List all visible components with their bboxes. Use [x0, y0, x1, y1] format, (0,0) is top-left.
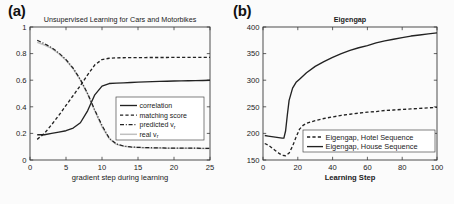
x-tick-label: 10 [98, 163, 106, 172]
y-tick-label: 200 [247, 129, 260, 138]
y-tick-label: 1 [22, 23, 26, 32]
y-tick-label: 250 [247, 103, 260, 112]
y-tick-label: 150 [247, 156, 260, 165]
y-tick-label: 0.8 [16, 49, 27, 58]
y-tick-label: 0.6 [16, 76, 27, 85]
y-tick-label: 300 [247, 76, 260, 85]
legend-label: Eigengap, Hotel Sequence [326, 133, 414, 142]
series-line [265, 33, 437, 138]
x-tick-label: 20 [170, 163, 178, 172]
x-tick-label: 100 [431, 163, 444, 172]
x-tick-label: 40 [328, 163, 336, 172]
x-tick-label: 80 [398, 163, 406, 172]
x-axis-label: gradient step during learning [72, 173, 168, 182]
panel-a: (a) Unsupervised Learning for Cars and M… [0, 0, 227, 204]
figure-container: (a) Unsupervised Learning for Cars and M… [0, 0, 454, 204]
chart-title: Eigengap [334, 15, 367, 24]
legend-label: Eigengap, House Sequence [326, 142, 418, 151]
y-tick-label: 0.2 [16, 129, 27, 138]
x-tick-label: 0 [28, 163, 32, 172]
x-axis-label: Learning Step [325, 173, 376, 182]
chart-panel-b: Eigengap020406080100150200250300350400Le… [227, 0, 454, 204]
legend-label: matching score [140, 112, 188, 120]
legend-label: correlation [140, 102, 173, 109]
chart-title: Unsupervised Learning for Cars and Motor… [44, 15, 197, 24]
chart-panel-a: Unsupervised Learning for Cars and Motor… [0, 0, 227, 204]
y-tick-label: 400 [247, 23, 260, 32]
x-tick-label: 0 [261, 163, 265, 172]
y-tick-label: 0.4 [16, 103, 27, 112]
x-tick-label: 60 [363, 163, 371, 172]
y-tick-label: 0 [22, 156, 26, 165]
x-tick-label: 15 [134, 163, 142, 172]
x-tick-label: 20 [294, 163, 302, 172]
x-tick-label: 25 [206, 163, 214, 172]
y-tick-label: 350 [247, 49, 260, 58]
x-tick-label: 5 [64, 163, 68, 172]
panel-b: (b) Eigengap0204060801001502002503003504… [227, 0, 454, 204]
